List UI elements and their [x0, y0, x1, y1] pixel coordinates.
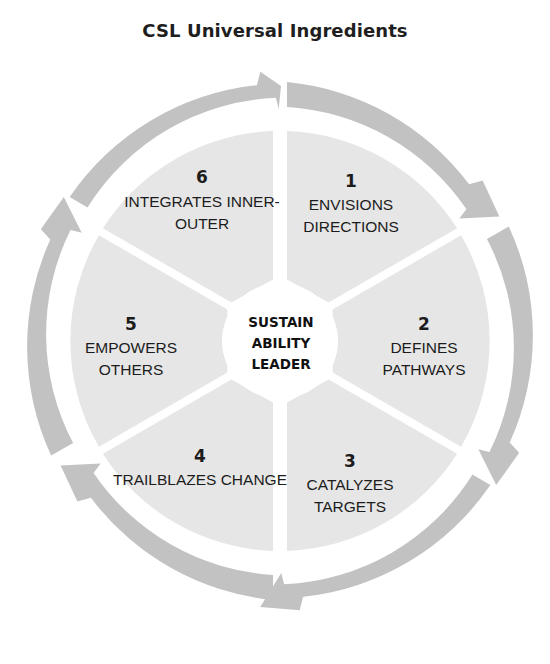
segment-label-line-1: EMPOWERS [85, 339, 177, 356]
segment-number: 1 [345, 171, 357, 191]
segment-label-line-1: INTEGRATES INNER- [124, 193, 280, 210]
segment-label-line-2: OUTER [175, 215, 229, 232]
segment-number: 5 [125, 314, 137, 334]
hub-label-line-3: LEADER [251, 356, 311, 372]
segment-number: 6 [196, 167, 208, 187]
segment-label-line-2: TARGETS [314, 498, 386, 515]
segment-label-line-2: PATHWAYS [383, 361, 466, 378]
segment-label-line-1: ENVISIONS [309, 196, 393, 213]
hub-label-line-1: SUSTAIN [248, 314, 313, 330]
segment-number: 3 [344, 451, 356, 471]
segment-label-line-1: CATALYZES [307, 476, 394, 493]
segment-label-line-1: TRAILBLAZES CHANGE [113, 471, 287, 488]
cycle-diagram: SUSTAIN ABILITY LEADER 1 ENVISIONS DIREC… [0, 0, 550, 664]
segment-label-line-2: OTHERS [99, 361, 164, 378]
segment-number: 4 [194, 446, 206, 466]
hub-label-line-2: ABILITY [252, 335, 311, 351]
segment-label-line-1: DEFINES [390, 339, 457, 356]
segment-label-line-2: DIRECTIONS [303, 218, 399, 235]
segment-number: 2 [418, 314, 430, 334]
